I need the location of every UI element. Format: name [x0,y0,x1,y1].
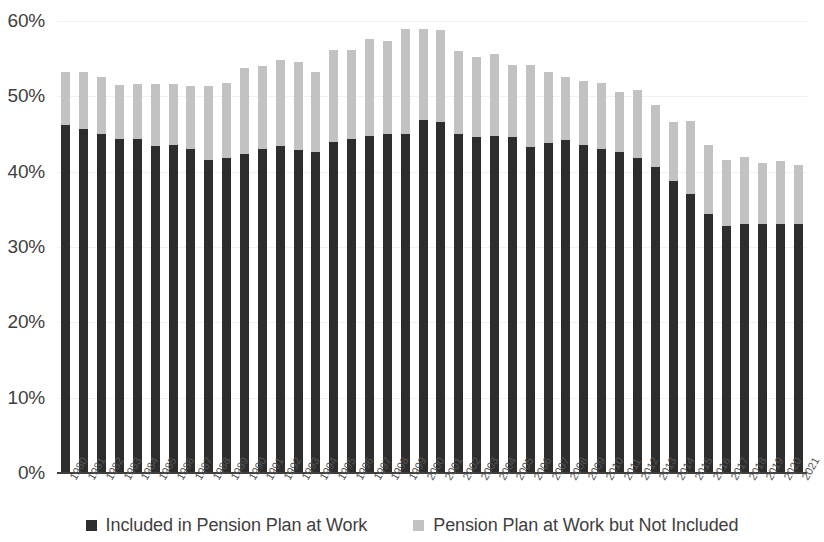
legend-swatch-included [86,520,97,531]
bar-segment-included [597,149,606,473]
bar-segment-included [294,150,303,473]
bar-column[interactable] [544,72,553,473]
bar-segment-included [669,181,678,473]
bar-segment-not-included [204,86,213,160]
bar-segment-not-included [472,57,481,137]
bar-segment-not-included [579,81,588,144]
bar-column[interactable] [419,29,428,473]
bar-column[interactable] [686,121,695,473]
bar-column[interactable] [401,29,410,473]
bar-segment-included [258,149,267,473]
bar-segment-included [758,224,767,473]
bar-segment-not-included [115,85,124,139]
y-axis-tick-label: 30% [8,236,45,258]
bar-segment-not-included [401,29,410,134]
bar-column[interactable] [597,83,606,473]
bar-segment-not-included [258,66,267,149]
bar-column[interactable] [133,84,142,473]
bar-series-group [57,21,807,473]
bar-column[interactable] [222,83,231,473]
bar-segment-included [365,136,374,473]
bar-column[interactable] [151,84,160,473]
bar-column[interactable] [704,145,713,473]
bar-segment-not-included [436,30,445,122]
bar-column[interactable] [258,66,267,473]
y-axis-tick-label: 0% [18,462,45,484]
bar-column[interactable] [740,157,749,473]
bar-column[interactable] [329,50,338,473]
bar-segment-not-included [151,84,160,146]
bar-column[interactable] [436,30,445,473]
bar-column[interactable] [240,68,249,473]
bar-segment-not-included [240,68,249,154]
bar-column[interactable] [311,72,320,473]
bar-segment-not-included [794,165,803,225]
bar-segment-included [169,145,178,473]
bar-column[interactable] [490,54,499,473]
legend-label-included: Included in Pension Plan at Work [106,515,368,536]
bar-column[interactable] [454,51,463,473]
bar-segment-not-included [704,145,713,214]
bar-segment-not-included [222,83,231,158]
bar-column[interactable] [633,90,642,473]
y-axis-tick-label: 40% [8,161,45,183]
bar-column[interactable] [615,92,624,473]
bar-column[interactable] [776,161,785,473]
bar-column[interactable] [669,122,678,473]
bar-column[interactable] [186,86,195,473]
bar-column[interactable] [579,81,588,473]
bar-segment-included [454,134,463,473]
bar-segment-not-included [686,121,695,194]
bar-column[interactable] [169,84,178,473]
bar-segment-included [97,134,106,473]
bar-column[interactable] [204,86,213,473]
bar-column[interactable] [722,160,731,473]
bar-segment-included [133,139,142,473]
legend-item-included[interactable]: Included in Pension Plan at Work [86,515,368,536]
bar-column[interactable] [508,65,517,473]
bar-segment-not-included [776,161,785,224]
bar-column[interactable] [365,39,374,473]
bar-segment-not-included [526,65,535,146]
bar-column[interactable] [97,77,106,473]
bar-segment-not-included [61,72,70,125]
bar-column[interactable] [794,165,803,473]
y-axis-tick-label: 10% [8,387,45,409]
legend-item-not-included[interactable]: Pension Plan at Work but Not Included [413,515,738,536]
bar-segment-not-included [329,50,338,142]
bar-column[interactable] [276,60,285,473]
bar-segment-included [204,160,213,473]
bar-segment-not-included [597,83,606,149]
bar-column[interactable] [472,57,481,473]
bar-column[interactable] [79,72,88,473]
x-axis: 1980198119821983198419851986198719881989… [57,474,807,514]
bar-segment-included [419,120,428,473]
bar-segment-included [490,136,499,473]
bar-column[interactable] [561,77,570,473]
bar-segment-not-included [740,157,749,225]
bar-segment-not-included [615,92,624,152]
bar-column[interactable] [651,105,660,473]
bar-segment-not-included [186,86,195,149]
bar-segment-included [61,125,70,473]
bar-segment-included [151,146,160,473]
bar-segment-included [401,134,410,473]
bar-column[interactable] [115,85,124,473]
bar-segment-included [740,224,749,473]
bar-column[interactable] [61,72,70,473]
bar-segment-included [508,137,517,473]
bar-column[interactable] [758,163,767,473]
bar-column[interactable] [294,62,303,473]
bar-column[interactable] [526,65,535,473]
bar-column[interactable] [383,41,392,473]
bar-segment-not-included [633,90,642,158]
bar-segment-included [615,152,624,473]
bar-column[interactable] [347,50,356,473]
bar-segment-included [722,226,731,473]
bar-segment-included [79,129,88,473]
bar-segment-not-included [97,77,106,134]
bar-segment-included [186,149,195,473]
bar-segment-included [240,154,249,473]
bar-segment-included [776,224,785,473]
bar-segment-not-included [79,72,88,129]
